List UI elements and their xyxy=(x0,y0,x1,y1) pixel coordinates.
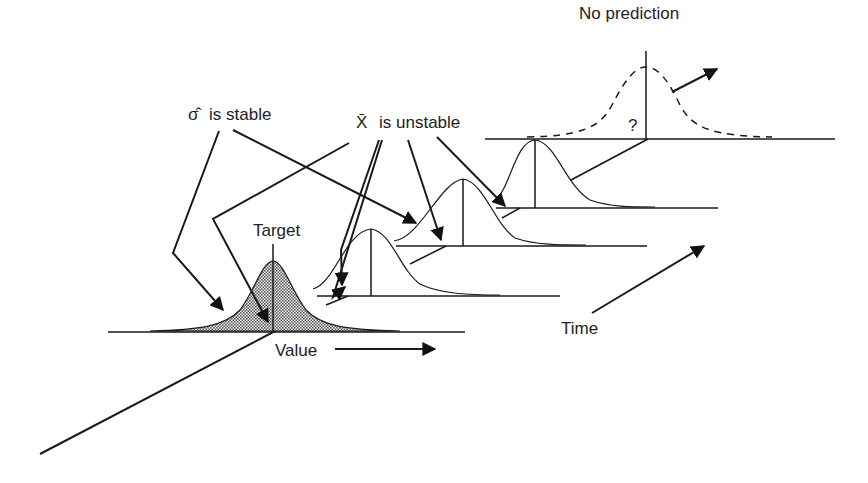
sigma-stable-label: σ̂ is stable xyxy=(188,105,271,124)
distribution-t3 xyxy=(495,139,718,218)
process-drift-diagram: ? No prediction σ̂ is stable X̄ is unsta… xyxy=(0,0,868,483)
sigma-stable-text: is stable xyxy=(209,105,271,124)
distribution-t2 xyxy=(394,179,647,264)
sigma-pointers xyxy=(173,130,416,310)
xbar-unstable-label: X̄ is unstable xyxy=(356,113,460,132)
xbar-unstable-text: is unstable xyxy=(379,113,460,132)
time-arrow xyxy=(592,246,704,313)
question-mark: ? xyxy=(628,116,637,135)
distribution-target xyxy=(108,244,465,332)
target-label: Target xyxy=(253,221,301,240)
value-label: Value xyxy=(275,341,317,360)
sigma-hat-symbol: σ̂ xyxy=(188,105,201,124)
xbar-symbol: X̄ xyxy=(356,113,367,132)
time-label: Time xyxy=(561,319,598,338)
time-axis xyxy=(40,318,300,454)
distribution-future: ? xyxy=(485,51,835,139)
no-prediction-label: No prediction xyxy=(579,4,679,23)
